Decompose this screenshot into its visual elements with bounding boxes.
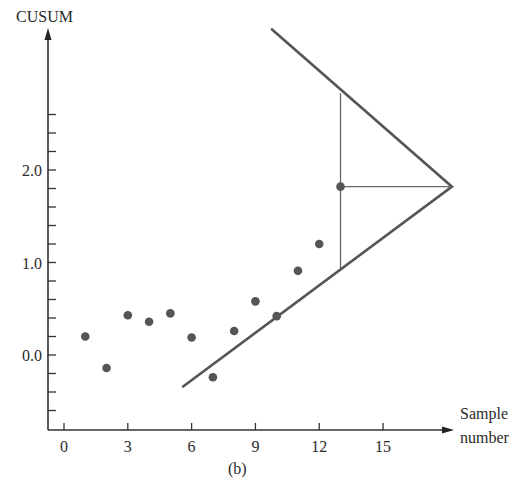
x-tick-label: 12 [311, 438, 327, 455]
data-point [272, 312, 281, 321]
data-point [209, 373, 218, 382]
y-axis [45, 28, 52, 430]
data-point [166, 309, 175, 318]
data-point [336, 182, 345, 191]
x-tick-label: 0 [60, 438, 68, 455]
v-mask [183, 29, 452, 386]
x-tick-label: 6 [188, 438, 196, 455]
x-axis-label-line2: number [460, 429, 510, 446]
cusum-v-mask-chart: CUSUM Sample number (b) 0.01.02.0 036912… [0, 0, 524, 495]
v-mask-arms [183, 29, 452, 386]
data-point [294, 267, 303, 276]
x-axis-ticks [64, 423, 383, 430]
x-axis [48, 427, 454, 434]
x-tick-label: 15 [375, 438, 391, 455]
data-point [315, 240, 324, 249]
data-point [81, 332, 90, 341]
x-axis-arrow-icon [442, 427, 454, 434]
x-tick-label: 9 [251, 438, 259, 455]
data-point [187, 333, 196, 342]
y-axis-label: CUSUM [16, 8, 73, 25]
data-point [145, 317, 154, 326]
y-axis-tick-labels: 0.01.02.0 [22, 162, 42, 364]
y-axis-ticks [48, 115, 56, 411]
data-point [102, 364, 111, 373]
x-axis-tick-labels: 03691215 [60, 438, 391, 455]
data-points [81, 182, 345, 381]
data-point [251, 297, 260, 306]
y-tick-label: 0.0 [22, 347, 42, 364]
x-tick-label: 3 [124, 438, 132, 455]
y-axis-arrow-icon [45, 28, 52, 40]
y-tick-label: 2.0 [22, 162, 42, 179]
x-axis-label-line1: Sample [460, 405, 508, 423]
data-point [124, 311, 133, 320]
y-tick-label: 1.0 [22, 255, 42, 272]
data-point [230, 327, 239, 336]
figure-caption: (b) [228, 460, 247, 478]
